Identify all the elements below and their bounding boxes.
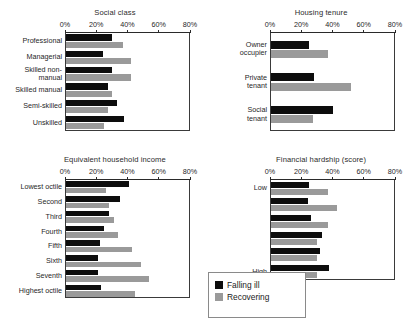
- chart-title: Social class: [21, 8, 209, 17]
- bar-recovering: [66, 107, 108, 113]
- legend-label: Recovering: [227, 292, 269, 302]
- y-axis-category-label: Second: [2, 195, 62, 210]
- chart-title: Equivalent household income: [21, 155, 209, 164]
- x-axis-tick-label: 20%: [89, 20, 103, 29]
- chart-legend: Falling illRecovering: [208, 272, 306, 318]
- bar-group: [66, 180, 189, 195]
- y-axis-category-label: Fourth: [2, 224, 62, 239]
- y-axis-category-label: Owner occupier: [213, 33, 267, 66]
- y-axis-category-label: Third: [2, 210, 62, 225]
- y-axis-category-label: Skilled non- manual: [2, 66, 62, 82]
- x-axis-tick-label: 40%: [120, 20, 134, 29]
- bar-recovering: [66, 42, 123, 48]
- bar-recovering: [66, 74, 131, 80]
- bar-group: [271, 213, 394, 230]
- bar-group: [271, 66, 394, 99]
- bar-group: [66, 82, 189, 98]
- x-axis-tick-label: 20%: [294, 20, 308, 29]
- x-axis-tick-label: 0%: [60, 20, 70, 29]
- bar-recovering: [271, 83, 351, 91]
- x-axis: 0%20%40%60%80%: [65, 20, 190, 33]
- chart-panel-financial-hardship: Financial hardship (score)0%20%40%60%80%…: [213, 155, 395, 280]
- y-axis-category-label: Private tenant: [213, 66, 267, 99]
- y-axis-category-label: Semi-skilled: [2, 98, 62, 114]
- bar-recovering: [271, 222, 328, 228]
- x-axis-tick-label: 60%: [357, 20, 371, 29]
- bar-recovering: [271, 205, 337, 211]
- y-axis-category-labels: LowHigh: [213, 180, 270, 280]
- y-axis-category-label: Managerial: [2, 49, 62, 65]
- x-axis: 0%20%40%60%80%: [270, 20, 395, 33]
- bar-group: [66, 283, 189, 298]
- y-axis-category-label: Sixth: [2, 254, 62, 269]
- y-axis-category-labels: Owner occupierPrivate tenantSocial tenan…: [213, 33, 270, 131]
- y-axis-category-label: Low: [213, 180, 267, 197]
- bar-group: [271, 197, 394, 214]
- bar-group: [66, 98, 189, 114]
- bar-falling-ill: [271, 106, 333, 114]
- chart-panel-housing-tenure: Housing tenure0%20%40%60%80%Owner occupi…: [213, 8, 395, 131]
- y-axis-category-label: [213, 247, 267, 264]
- legend-swatch-icon: [215, 293, 223, 301]
- x-axis-tick-label: 60%: [152, 167, 166, 176]
- plot-area: [270, 33, 395, 131]
- legend-item-recovering[interactable]: Recovering: [215, 292, 298, 302]
- plot-area: [65, 33, 190, 131]
- y-axis-category-label: Highest octile: [2, 283, 62, 298]
- bar-group: [271, 33, 394, 66]
- y-axis-category-label: [213, 213, 267, 230]
- y-axis-category-label: [213, 197, 267, 214]
- bar-recovering: [66, 262, 141, 268]
- bar-group: [271, 98, 394, 131]
- bar-recovering: [66, 276, 149, 282]
- bar-recovering: [271, 189, 328, 195]
- bar-recovering: [66, 232, 118, 238]
- x-axis-tick-label: 60%: [357, 167, 371, 176]
- bar-group: [66, 195, 189, 210]
- y-axis-category-label: Lowest octile: [2, 180, 62, 195]
- chart-title: Financial hardship (score): [230, 155, 403, 164]
- bar-recovering: [66, 123, 104, 129]
- x-axis-tick-label: 80%: [183, 20, 197, 29]
- bar-recovering: [66, 291, 135, 297]
- y-axis-category-label: Professional: [2, 33, 62, 49]
- x-axis-tick-label: 80%: [388, 167, 402, 176]
- bar-recovering: [66, 91, 112, 97]
- bar-group: [66, 115, 189, 131]
- bar-group: [66, 66, 189, 82]
- chart-title: Housing tenure: [230, 8, 403, 17]
- bar-group: [66, 33, 189, 49]
- chart-panel-equivalent-household-income: Equivalent household income0%20%40%60%80…: [2, 155, 190, 298]
- x-axis-tick-label: 80%: [183, 167, 197, 176]
- x-axis-tick-label: 40%: [120, 167, 134, 176]
- legend-swatch-icon: [215, 281, 223, 289]
- bar-group: [66, 239, 189, 254]
- bar-recovering: [271, 50, 328, 58]
- y-axis-category-label: Fifth: [2, 239, 62, 254]
- bar-falling-ill: [271, 41, 309, 49]
- bar-recovering: [271, 239, 317, 245]
- x-axis-tick-label: 0%: [265, 20, 275, 29]
- bar-recovering: [66, 188, 106, 194]
- x-axis-tick-label: 0%: [60, 167, 70, 176]
- bar-recovering: [271, 255, 317, 261]
- y-axis-category-labels: Lowest octileSecondThirdFourthFifthSixth…: [2, 180, 65, 298]
- bar-group: [66, 269, 189, 284]
- bar-group: [66, 254, 189, 269]
- legend-item-falling-ill[interactable]: Falling ill: [215, 280, 298, 290]
- bar-recovering: [271, 115, 313, 123]
- x-axis-tick-label: 40%: [325, 167, 339, 176]
- y-axis-category-labels: ProfessionalManagerialSkilled non- manua…: [2, 33, 65, 131]
- bar-recovering: [66, 217, 114, 223]
- bar-falling-ill: [271, 73, 314, 81]
- bar-recovering: [66, 247, 132, 253]
- x-axis-tick-label: 20%: [294, 167, 308, 176]
- x-axis-tick-label: 80%: [388, 20, 402, 29]
- bar-group: [271, 230, 394, 247]
- y-axis-category-label: Skilled manual: [2, 82, 62, 98]
- bar-group: [66, 224, 189, 239]
- y-axis-category-label: [213, 230, 267, 247]
- x-axis-tick-label: 0%: [265, 167, 275, 176]
- chart-panel-social-class: Social class0%20%40%60%80%ProfessionalMa…: [2, 8, 190, 131]
- bar-group: [271, 180, 394, 197]
